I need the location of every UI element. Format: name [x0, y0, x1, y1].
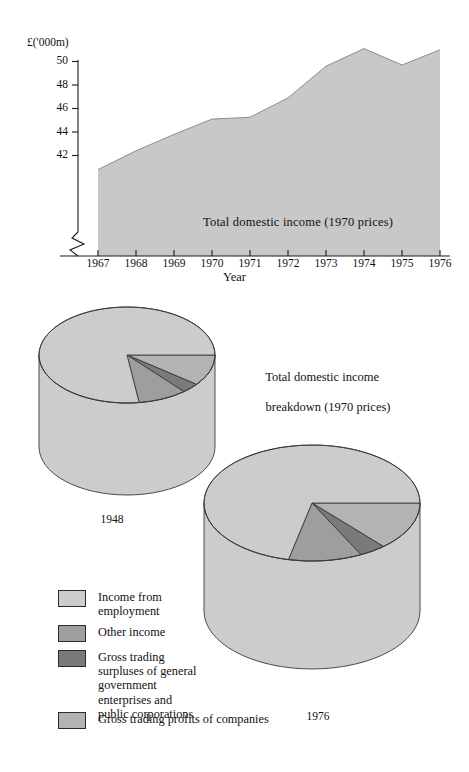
legend-item: Income fromemployment — [58, 590, 162, 618]
x-axis-title: Year — [0, 270, 469, 285]
area-series-label: Total domestic income (1970 prices) — [203, 215, 393, 230]
x-axis-tick-label: 1973 — [306, 257, 346, 269]
y-axis-tick-label: 42 — [44, 148, 68, 160]
x-axis-tick-label: 1972 — [268, 257, 308, 269]
legend-swatch — [58, 590, 86, 607]
legend-item: Gross tradingsurpluses of generalgovernm… — [58, 650, 196, 721]
legend-label: Income fromemployment — [98, 590, 162, 618]
x-axis-tick-label: 1967 — [78, 257, 118, 269]
x-axis-tick-label: 1974 — [344, 257, 384, 269]
x-axis-tick-label: 1975 — [382, 257, 422, 269]
legend-swatch — [58, 712, 86, 729]
legend-item: Other income — [58, 625, 165, 642]
pie-section-title-line2: breakdown (1970 prices) — [266, 400, 391, 414]
area-chart — [0, 0, 469, 300]
x-axis-tick-label: 1971 — [230, 257, 270, 269]
x-axis-tick-label: 1968 — [116, 257, 156, 269]
y-axis-tick-label: 44 — [44, 125, 68, 137]
y-axis-tick-label: 46 — [44, 101, 68, 113]
y-axis-unit-label: £('000m) — [27, 36, 69, 48]
legend-swatch — [58, 625, 86, 642]
pie-section-title-line1: Total domestic income — [265, 370, 379, 384]
y-axis-tick-label: 48 — [44, 78, 68, 90]
axis-break-icon — [70, 232, 84, 256]
figure-root: £('000m) 4244464850 19671968196919701971… — [0, 0, 469, 772]
pie-1976-label: 1976 — [278, 710, 358, 722]
legend-label: Gross trading profits of companies — [98, 712, 269, 726]
legend-swatch — [58, 650, 86, 667]
x-axis-tick-label: 1976 — [420, 257, 460, 269]
pie-1948-label: 1948 — [72, 513, 152, 525]
pie-1948 — [39, 307, 215, 495]
y-axis-tick-label: 50 — [44, 54, 68, 66]
legend-label: Gross tradingsurpluses of generalgovernm… — [98, 650, 196, 721]
legend-label: Other income — [98, 625, 165, 639]
pie-1976 — [204, 445, 420, 669]
legend-item: Gross trading profits of companies — [58, 712, 269, 729]
x-axis-tick-label: 1969 — [154, 257, 194, 269]
y-axis-ticks — [72, 62, 78, 156]
pie-section-title: Total domestic income breakdown (1970 pr… — [253, 355, 390, 430]
x-axis-tick-label: 1970 — [192, 257, 232, 269]
